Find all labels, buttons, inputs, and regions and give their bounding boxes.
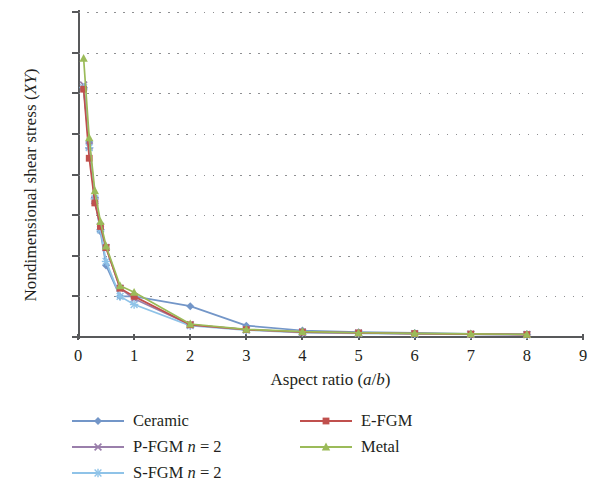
data-point-asterisk [94,469,103,478]
legend-item-e-fgm[interactable]: E-FGM [300,408,512,434]
data-point-triangle [91,186,99,194]
legend-marker-glyph [91,466,103,479]
data-point-triangle [322,443,330,451]
y-axis-title-text: Nondimensional shear stress ( [21,94,40,301]
legend-marker-asterisk-icon [72,466,124,480]
y-axis-title: Nondimensional shear stress (XY) [21,20,41,350]
legend-item-ceramic[interactable]: Ceramic [72,408,300,434]
legend-marker-square-icon [300,414,352,428]
legend-marker-diamond-icon [72,414,124,428]
x-axis-tick-label: 5 [339,346,379,366]
legend-item-s-fgm-n-2[interactable]: S-FGM n = 2 [72,460,300,486]
data-point-diamond [94,417,102,425]
data-point-asterisk [116,292,125,301]
series-line [84,85,527,334]
legend-marker-glyph [91,414,103,427]
x-axis-tick-label: 7 [451,346,491,366]
x-axis-tick-label: 2 [170,346,210,366]
x-axis-title-italic-a: a [363,370,372,389]
legend-label: E-FGM [352,411,412,431]
data-point-triangle [85,134,93,142]
legend-marker-glyph [319,440,331,453]
y-axis-title-tail: ) [21,68,40,74]
data-point-diamond [186,302,194,310]
series-line [84,89,527,334]
x-axis-tick-label: 8 [507,346,547,366]
legend-marker-glyph [319,414,331,427]
legend-label: Metal [352,437,400,457]
x-axis-tick-label: 9 [563,346,592,366]
x-axis-tick-label: 0 [58,346,98,366]
y-axis-title-italic: XY [21,74,40,94]
legend-label: Ceramic [124,411,189,431]
chart-legend: CeramicE-FGMP-FGM n = 2MetalS-FGM n = 2 [72,408,512,486]
legend-label: P-FGM n = 2 [124,437,222,457]
legend-item-metal[interactable]: Metal [300,434,512,460]
x-axis-tick-label: 6 [395,346,435,366]
series-line [84,89,527,334]
plot-area: 00.511.522.533.54 0123456789 [78,12,583,337]
x-axis-tick-label: 3 [226,346,266,366]
x-axis-tick-label: 4 [282,346,322,366]
data-point-square [323,418,330,425]
legend-marker-glyph [91,440,103,453]
legend-label: S-FGM n = 2 [124,463,222,483]
x-axis-title-text: Aspect ratio ( [271,370,364,389]
legend-item-p-fgm-n-2[interactable]: P-FGM n = 2 [72,434,300,460]
x-axis-title: Aspect ratio (a/b) [78,370,583,390]
x-axis-tick-label: 1 [114,346,154,366]
data-point-cross [95,444,102,451]
series-line [84,88,527,335]
series-line [84,58,527,334]
legend-marker-cross-icon [72,440,124,454]
data-point-triangle [79,54,87,62]
legend-marker-triangle-icon [300,440,352,454]
x-axis-title-tail: ) [385,370,391,389]
data-series-layer [78,12,583,337]
data-point-asterisk [130,300,139,309]
x-axis-title-italic-b: b [376,370,385,389]
